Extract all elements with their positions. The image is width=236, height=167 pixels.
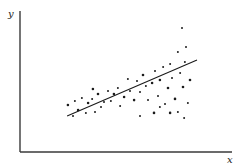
data-point [94,111,96,113]
data-point [133,99,136,102]
data-point [159,79,162,82]
data-point [145,85,147,87]
data-point [159,106,161,108]
data-point [127,78,129,80]
data-point [169,63,171,65]
data-point [177,111,179,113]
data-point [171,77,173,79]
data-point [169,112,172,115]
data-point [162,66,164,68]
data-point [129,90,131,92]
data-point [139,91,141,93]
data-point [174,98,177,101]
data-point [103,101,105,103]
data-point [182,86,185,89]
data-point [136,80,138,82]
y-axis-label: y [7,8,14,19]
data-point [91,98,93,100]
data-point [139,115,141,117]
data-point [164,103,166,105]
data-point [87,102,90,105]
data-point [123,96,126,99]
data-point [154,70,156,72]
data-point [187,102,189,104]
data-point [147,99,149,101]
x-axis-label: x [227,154,233,165]
data-point [100,106,102,108]
data-point [72,115,74,117]
data-point [81,97,83,99]
data-point [177,51,179,53]
data-point [153,112,156,115]
data-point [74,100,76,102]
data-point [157,95,159,97]
data-point [92,88,95,91]
data-point [142,74,145,77]
data-point [167,87,170,90]
data-point [119,105,121,107]
data-point [184,61,186,63]
data-point [183,117,185,119]
data-point [181,27,183,29]
data-point [67,104,70,107]
data-point [107,90,109,92]
data-point [189,79,192,82]
scatter-chart: y x [0,0,236,167]
data-points [67,27,192,119]
data-point [85,112,87,114]
data-point [110,100,112,102]
data-point [151,82,154,85]
data-point [185,46,187,48]
data-point [97,93,100,96]
regression-line [67,60,197,116]
data-point [117,87,119,89]
data-point [179,72,181,74]
